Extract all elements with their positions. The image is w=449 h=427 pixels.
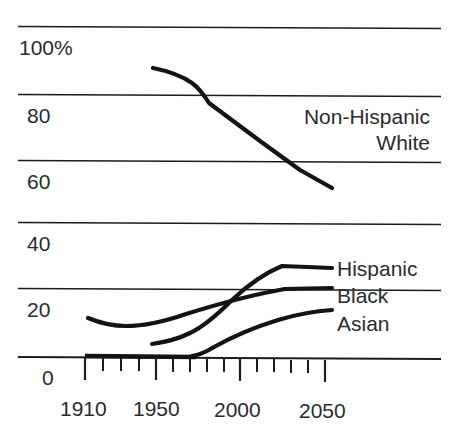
- series-label-non-hispanic-white-line2: White: [376, 131, 430, 154]
- ytick-label-0: 0: [42, 366, 54, 389]
- gridline-80: [18, 95, 441, 97]
- xtick-label-2000: 2000: [214, 398, 261, 421]
- ytick-label-40: 40: [27, 232, 50, 255]
- gridline-60: [18, 161, 441, 163]
- line-chart: 100% 80 60 40 20 0 1910 1950 2000 2050 N…: [0, 0, 449, 427]
- data-series: [88, 68, 332, 356]
- y-tick-labels: 100% 80 60 40 20 0: [19, 36, 73, 389]
- xtick-label-1950: 1950: [133, 397, 180, 420]
- chart-container: 100% 80 60 40 20 0 1910 1950 2000 2050 N…: [0, 0, 449, 427]
- xtick-label-1910: 1910: [60, 397, 107, 420]
- ytick-label-60: 60: [27, 170, 50, 193]
- gridline-100: [18, 27, 441, 29]
- series-label-hispanic: Hispanic: [337, 257, 418, 280]
- ytick-label-20: 20: [27, 298, 50, 321]
- series-line-non-hispanic-white: [153, 68, 332, 188]
- x-axis: [18, 356, 441, 359]
- gridline-40: [18, 223, 441, 225]
- series-label-asian: Asian: [337, 312, 390, 335]
- ytick-label-100: 100%: [19, 36, 73, 59]
- axis-baseline-overlap: [85, 356, 196, 357]
- xtick-label-2050: 2050: [299, 399, 346, 422]
- x-tick-labels: 1910 1950 2000 2050: [60, 397, 346, 422]
- series-label-black: Black: [337, 284, 389, 307]
- axis-baseline: [18, 357, 441, 359]
- gridlines: [18, 27, 441, 291]
- series-label-non-hispanic-white-line1: Non-Hispanic: [304, 105, 430, 128]
- ytick-label-80: 80: [27, 104, 50, 127]
- series-labels: Non-Hispanic White Hispanic Black Asian: [304, 105, 430, 335]
- x-tickmarks: [85, 358, 325, 382]
